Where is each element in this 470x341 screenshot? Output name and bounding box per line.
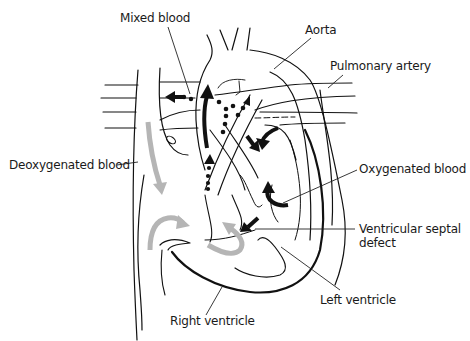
label-right-ventricle: Right ventricle [170,314,255,328]
pulmonary-artery [215,72,357,240]
label-ventricular-septal-defect: Ventricular septal [359,222,461,236]
label-aorta: Aorta [305,23,336,37]
label-mixed-blood: Mixed blood [120,11,190,25]
deoxygenated-flow-arrows [148,122,242,253]
label-ventricular-septal-defect-cont: defect [359,236,396,250]
label-left-ventricle: Left ventricle [320,293,396,307]
oxygenated-flow-arrows [165,84,288,232]
label-oxygenated-blood: Oxygenated blood [359,162,466,176]
label-pulmonary-artery: Pulmonary artery [330,59,431,73]
label-deoxygenated-blood: Deoxygenated blood [9,158,130,172]
vena-cava [133,68,188,340]
